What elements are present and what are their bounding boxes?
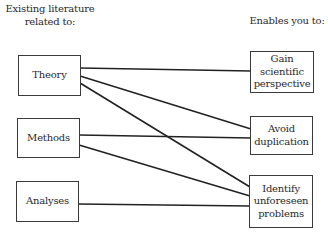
target-box-avoid: Avoid duplication [250,116,313,155]
source-label-analyses: Analyses [26,195,69,208]
target-box-identify: Identify unforeseen problems [249,175,313,228]
target-avoid-line-1: Avoid [254,123,309,136]
connector-theory-avoid [80,76,251,129]
source-label-methods: Methods [27,132,70,145]
target-box-gain: Gain scientific perspective [250,51,314,93]
target-gain-line-3: perspective [254,78,311,91]
target-identify-line-3: problems [254,208,309,221]
target-gain-line-1: Gain [254,53,311,66]
target-identify-line-2: unforeseen [254,195,309,208]
source-box-methods: Methods [17,118,80,158]
target-gain-line-2: scientific [254,66,311,79]
connector-theory-gain [80,68,251,71]
target-identify-line-1: Identify [254,183,309,196]
target-avoid-line-2: duplication [254,136,309,149]
source-label-theory: Theory [32,69,66,82]
source-box-theory: Theory [18,55,81,96]
connector-analyses-identify [78,204,250,206]
source-box-analyses: Analyses [16,181,79,222]
